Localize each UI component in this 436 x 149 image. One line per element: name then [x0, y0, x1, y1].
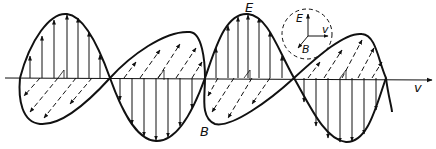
- inset-v-label: v: [322, 23, 329, 36]
- em-wave-diagram: E B v E v B: [0, 0, 436, 149]
- inset-b-label: B: [302, 43, 310, 56]
- magnetic-field-label: B: [200, 124, 209, 139]
- propagation-axis: [5, 78, 432, 80]
- electric-field-label: E: [245, 0, 254, 15]
- velocity-label: v: [414, 80, 422, 95]
- inset-e-label: E: [296, 12, 303, 25]
